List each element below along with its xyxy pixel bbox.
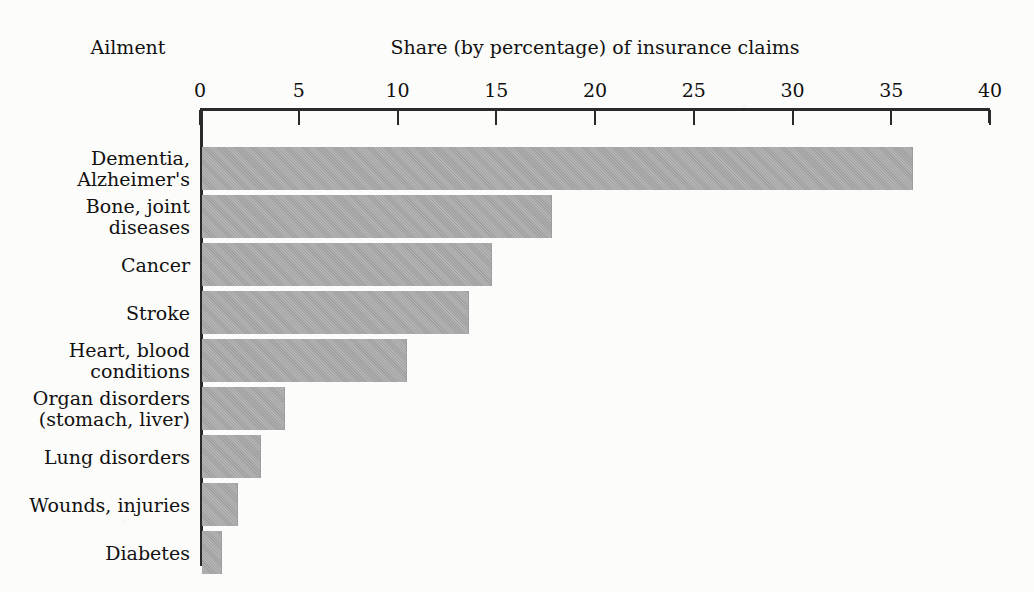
bar — [202, 387, 285, 430]
category-label: Diabetes — [0, 542, 190, 563]
bar-row: Bone, joint diseases — [0, 195, 1034, 238]
category-label: Heart, blood conditions — [0, 340, 190, 382]
bar — [202, 531, 222, 574]
bar — [202, 147, 913, 190]
bar — [202, 435, 261, 478]
bar — [202, 291, 469, 334]
bar-row: Organ disorders (stomach, liver) — [0, 387, 1034, 430]
bar-chart: Ailment Share (by percentage) of insuran… — [0, 0, 1034, 592]
bar — [202, 339, 407, 382]
category-label: Dementia, Alzheimer's — [0, 148, 190, 190]
category-label: Lung disorders — [0, 446, 190, 467]
category-label: Stroke — [0, 302, 190, 323]
bar — [202, 483, 238, 526]
category-label: Cancer — [0, 254, 190, 275]
bar-row: Stroke — [0, 291, 1034, 334]
bar — [202, 195, 552, 238]
bar-row: Lung disorders — [0, 435, 1034, 478]
bar-row: Heart, blood conditions — [0, 339, 1034, 382]
plot-area: Dementia, Alzheimer'sBone, joint disease… — [0, 0, 1034, 592]
bar-row: Dementia, Alzheimer's — [0, 147, 1034, 190]
category-label: Bone, joint diseases — [0, 196, 190, 238]
bar-row: Wounds, injuries — [0, 483, 1034, 526]
bar — [202, 243, 492, 286]
bar-row: Diabetes — [0, 531, 1034, 574]
bar-row: Cancer — [0, 243, 1034, 286]
category-label: Wounds, injuries — [0, 494, 190, 515]
category-label: Organ disorders (stomach, liver) — [0, 388, 190, 430]
